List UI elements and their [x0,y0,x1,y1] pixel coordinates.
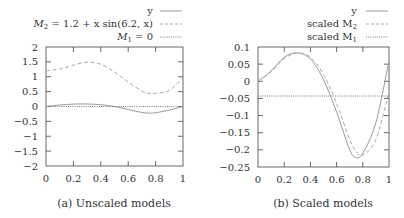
figure: y M2 = 1.2 + x sin(6.2, x) M1 = 0 00.20.… [0,0,404,218]
caption-b: (b) Scaled models [273,197,373,210]
x-tick-label: 0.4 [93,173,109,184]
legend-a: y M2 = 1.2 + x sin(6.2, x) M1 = 0 [33,5,182,44]
x-tick-label: 0.2 [65,173,81,184]
x-tick-label: 1 [180,173,186,184]
y-tick-label: −0.1 [226,110,250,121]
x-tick-label: 0 [43,173,49,184]
x-tick-label: 0.8 [148,173,164,184]
y-tick-label: −0.5 [14,116,38,127]
y-tick-label: −0.25 [219,162,250,173]
x-tick-label: 0.4 [302,174,318,185]
x-tick-label: 1 [386,174,392,185]
axis-ticks-a: 00.20.40.60.8121.510.50−0.5−1−1.5−2 [14,42,186,185]
x-tick-label: 0 [255,174,261,185]
series-line [46,62,183,94]
legend-b: y scaled M2 scaled M1 [307,5,388,44]
y-tick-label: 0 [32,101,38,112]
x-tick-label: 0.6 [329,174,345,185]
y-tick-label: −1.5 [14,146,38,157]
y-tick-label: −1 [23,131,38,142]
legend-a-m1-label: M1 = 0 [116,31,153,44]
y-tick-label: 2 [32,42,38,53]
y-tick-label: 0.1 [234,42,250,53]
series-a [46,62,183,113]
y-tick-label: −0.05 [219,93,250,104]
plot-frame-b [258,47,389,167]
y-tick-label: 1 [32,71,38,82]
legend-b-m1-label: scaled M1 [307,31,357,44]
y-tick-label: −2 [23,161,38,172]
y-tick-label: 0.5 [22,86,38,97]
series-line [46,104,183,113]
series-b [258,53,389,158]
legend-a-y-label: y [146,5,153,16]
legend-b-y-label: y [350,5,357,16]
legend-a-m2-label: M2 = 1.2 + x sin(6.2, x) [33,18,153,31]
y-tick-label: 0 [244,76,250,87]
chart-scaled-models: y scaled M2 scaled M1 00.20.40.60.810.10… [219,5,392,210]
axis-ticks-b: 00.20.40.60.810.10.050−0.05−0.1−0.15−0.2… [219,42,392,186]
chart-unscaled-models: y M2 = 1.2 + x sin(6.2, x) M1 = 0 00.20.… [14,5,186,210]
y-tick-label: 1.5 [22,56,38,67]
x-tick-label: 0.8 [355,174,371,185]
y-tick-label: 0.05 [228,59,250,70]
caption-a: (a) Unscaled models [57,197,171,210]
x-tick-label: 0.6 [120,173,136,184]
y-tick-label: −0.2 [226,144,250,155]
y-tick-label: −0.15 [219,127,250,138]
x-tick-label: 0.2 [276,174,292,185]
legend-b-m2-label: scaled M2 [307,18,357,31]
series-line [258,53,389,158]
